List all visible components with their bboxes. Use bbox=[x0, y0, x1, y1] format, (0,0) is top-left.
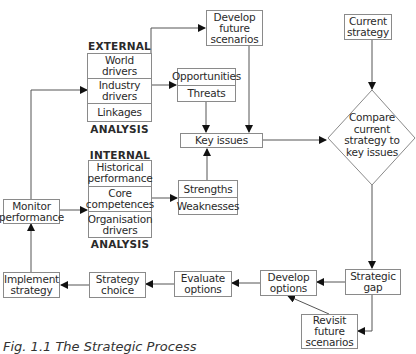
historical-performance-cell: Historical performance bbox=[89, 161, 151, 186]
core-competences-cell: Core competences bbox=[89, 186, 151, 212]
current-strategy-box: Current strategy bbox=[344, 14, 392, 40]
world-drivers-cell: World drivers bbox=[88, 54, 151, 78]
opportunities-threats-box: Opportunities Threats bbox=[177, 68, 236, 102]
strengths-weaknesses-box: Strengths Weaknesses bbox=[178, 180, 238, 215]
strategy-choice-box: Strategy choice bbox=[89, 272, 146, 298]
external-analysis-label: ANALYSIS bbox=[87, 123, 152, 135]
external-label: EXTERNAL bbox=[87, 40, 152, 52]
linkages-cell: Linkages bbox=[88, 103, 151, 121]
revisit-future-scenarios-box: Revisit future scenarios bbox=[301, 314, 358, 349]
compare-decision-text: Compare current strategy to key issues bbox=[344, 112, 400, 158]
industry-drivers-cell: Industry drivers bbox=[88, 78, 151, 103]
evaluate-options-box: Evaluate options bbox=[174, 271, 232, 297]
internal-analysis-label: ANALYSIS bbox=[88, 238, 152, 250]
organisation-drivers-cell: Organisation drivers bbox=[89, 211, 151, 237]
weaknesses-cell: Weaknesses bbox=[179, 197, 237, 214]
threats-cell: Threats bbox=[178, 85, 235, 102]
opportunities-cell: Opportunities bbox=[178, 69, 235, 85]
strengths-cell: Strengths bbox=[179, 181, 237, 197]
monitor-performance-box: Monitor performance bbox=[3, 199, 60, 224]
key-issues-box: Key issues bbox=[180, 133, 263, 148]
strategic-gap-box: Strategic gap bbox=[345, 269, 401, 295]
external-analysis-box: World drivers Industry drivers Linkages bbox=[87, 53, 152, 122]
develop-future-scenarios-box: Develop future scenarios bbox=[206, 10, 263, 46]
develop-options-box: Develop options bbox=[260, 270, 317, 296]
implement-strategy-box: Implement strategy bbox=[3, 272, 60, 298]
internal-analysis-box: Historical performance Core competences … bbox=[88, 160, 152, 238]
figure-caption: Fig. 1.1 The Strategic Process bbox=[3, 339, 196, 354]
